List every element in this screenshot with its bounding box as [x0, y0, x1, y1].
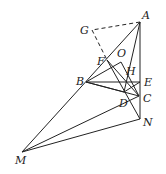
label-A: A — [141, 9, 150, 22]
geometry-diagram: A G F O B H E D C N M — [0, 0, 166, 174]
label-M: M — [14, 154, 27, 167]
label-B: B — [75, 75, 84, 88]
label-F: F — [96, 55, 105, 68]
segment-BD — [86, 82, 124, 92]
label-O: O — [117, 47, 126, 60]
label-D: D — [118, 97, 128, 110]
label-C: C — [143, 92, 152, 105]
label-H: H — [125, 65, 136, 78]
segment-AG — [92, 22, 140, 30]
label-G: G — [80, 24, 89, 37]
label-N: N — [142, 116, 153, 129]
label-E: E — [143, 76, 152, 89]
